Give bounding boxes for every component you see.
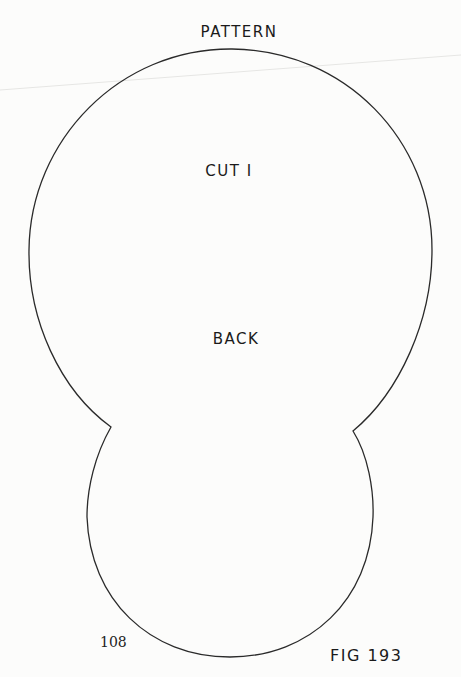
pattern-page: PATTERN CUT I BACK 108 FIG 193: [0, 0, 461, 677]
page-number: 108: [100, 634, 127, 650]
pattern-title: PATTERN: [201, 23, 278, 41]
page-crease: [0, 55, 461, 90]
figure-label: FIG 193: [330, 646, 402, 665]
piece-name: BACK: [213, 330, 260, 348]
cut-instruction: CUT I: [205, 162, 252, 180]
pattern-piece-outline: [29, 49, 432, 657]
